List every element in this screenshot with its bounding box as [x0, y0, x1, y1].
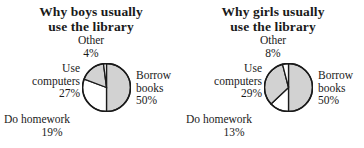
- slice-label-computers-boys-name1: Use: [62, 62, 80, 74]
- chart-title-boys-line2: use the library: [0, 19, 182, 34]
- slice-label-homework-girls-name: Do homework: [186, 113, 252, 125]
- slice-label-computers-girls: Use computers 29%: [184, 62, 262, 100]
- slice-label-other-boys-pct: 4%: [0, 47, 182, 60]
- slice-label-books-boys: Borrow books 50%: [136, 69, 182, 107]
- pie-chart-figure: Why boys usually use the library Other 4…: [0, 0, 364, 148]
- slice-label-books-girls-pct: 50%: [318, 94, 364, 107]
- slice-label-computers-girls-name1: Use: [244, 62, 262, 74]
- slice-label-computers-boys-name2: computers: [2, 75, 80, 88]
- chart-title-girls-line2: use the library: [182, 19, 364, 34]
- slice-label-other-girls-pct: 8%: [182, 47, 364, 60]
- slice-label-computers-girls-name2: computers: [184, 75, 262, 88]
- pie-slice-books-boys: [107, 64, 131, 112]
- slice-label-other-boys-name: Other: [78, 34, 104, 46]
- slice-label-books-girls: Borrow books 50%: [318, 69, 364, 107]
- chart-panel-girls: Why girls usually use the library Other …: [182, 0, 364, 148]
- slice-label-homework-boys: Do homework 19%: [4, 113, 100, 138]
- pie-boys-svg: [82, 63, 131, 112]
- slice-label-other-girls-name: Other: [260, 34, 286, 46]
- chart-title-girls-line1: Why girls usually: [222, 4, 325, 19]
- chart-panel-boys: Why boys usually use the library Other 4…: [0, 0, 182, 148]
- slice-label-computers-boys-pct: 27%: [2, 87, 80, 100]
- slice-label-homework-boys-pct: 19%: [4, 126, 100, 139]
- slice-label-homework-boys-name: Do homework: [4, 113, 70, 125]
- slice-label-homework-girls-pct: 13%: [186, 126, 282, 139]
- slice-label-other-boys: Other 4%: [0, 34, 182, 59]
- slice-label-books-boys-name1: Borrow: [136, 69, 171, 81]
- slice-label-books-boys-pct: 50%: [136, 94, 182, 107]
- slice-label-computers-girls-pct: 29%: [184, 87, 262, 100]
- pie-girls-svg: [264, 63, 313, 112]
- pie-slice-books-girls: [289, 64, 313, 112]
- pie-boys: [82, 63, 131, 112]
- slice-label-books-girls-name1: Borrow: [318, 69, 353, 81]
- pie-girls: [264, 63, 313, 112]
- slice-label-other-girls: Other 8%: [182, 34, 364, 59]
- chart-title-boys-line1: Why boys usually: [39, 4, 143, 19]
- slice-label-computers-boys: Use computers 27%: [2, 62, 80, 100]
- chart-title-boys: Why boys usually use the library: [0, 4, 182, 34]
- chart-title-girls: Why girls usually use the library: [182, 4, 364, 34]
- slice-label-homework-girls: Do homework 13%: [186, 113, 282, 138]
- slice-label-books-girls-name2: books: [318, 82, 364, 95]
- slice-label-books-boys-name2: books: [136, 82, 182, 95]
